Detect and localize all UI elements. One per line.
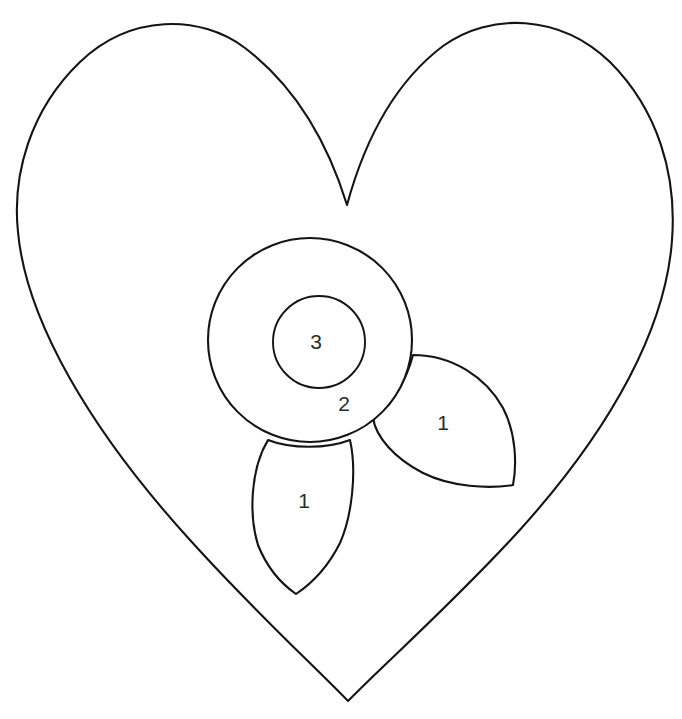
label-flower-outer-circle: 2 xyxy=(338,392,350,415)
pattern-drawing: 1 1 2 3 xyxy=(0,0,682,719)
label-petal-right: 1 xyxy=(437,411,449,434)
label-flower-inner-circle: 3 xyxy=(310,330,322,353)
pattern-canvas: 1 1 2 3 xyxy=(0,0,682,719)
label-petal-bottom: 1 xyxy=(298,489,310,512)
